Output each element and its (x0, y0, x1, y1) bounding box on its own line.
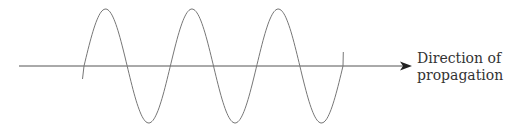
direction-label-line1: Direction of (417, 50, 503, 67)
direction-label: Direction of propagation (417, 50, 503, 84)
direction-label-line2: propagation (417, 67, 503, 84)
